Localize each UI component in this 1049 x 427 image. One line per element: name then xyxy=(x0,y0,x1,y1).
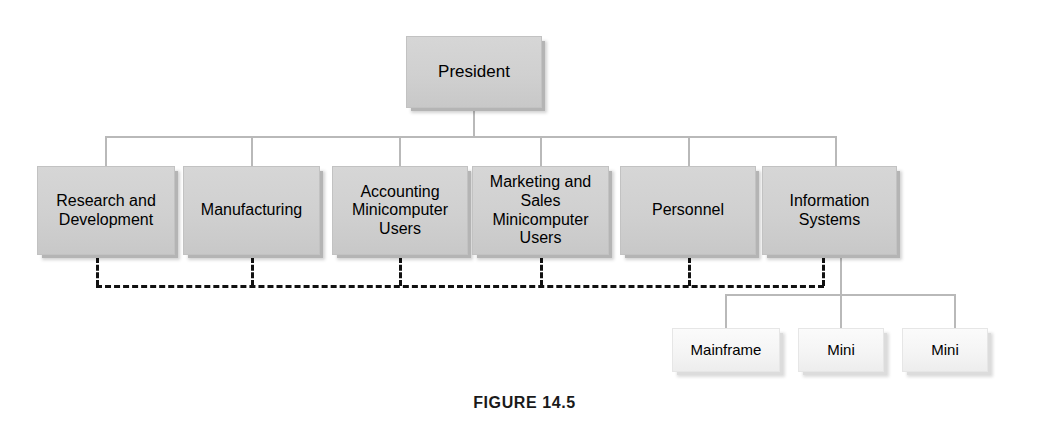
node-manufacturing-label: Manufacturing xyxy=(197,201,306,220)
connector-information-systems-stem xyxy=(840,255,842,295)
dashed-stub-manufacturing xyxy=(251,257,254,286)
connector-drop-mini-1 xyxy=(840,294,842,328)
node-research-and-development-label: Research and Development xyxy=(52,192,160,229)
figure-caption: FIGURE 14.5 xyxy=(0,394,1049,412)
connector-drop-research-and-development xyxy=(105,136,107,166)
node-marketing-and-sales-minicomputer-users-label: Marketing and Sales Minicomputer Users xyxy=(486,173,595,247)
dashed-stub-accounting xyxy=(399,257,402,286)
connector-drop-information-systems xyxy=(835,136,837,166)
node-president[interactable]: President xyxy=(406,36,542,108)
connector-president-stem xyxy=(473,108,475,138)
node-information-systems[interactable]: Information Systems xyxy=(762,166,897,255)
dashed-stub-information-systems xyxy=(822,257,825,286)
node-research-and-development[interactable]: Research and Development xyxy=(37,166,175,255)
node-mini-1-label: Mini xyxy=(823,341,859,358)
connector-drop-mini-2 xyxy=(954,294,956,328)
node-president-label: President xyxy=(434,62,514,82)
dashed-stub-marketing xyxy=(540,257,543,286)
node-accounting-minicomputer-users[interactable]: Accounting Minicomputer Users xyxy=(332,166,468,255)
connector-drop-personnel xyxy=(688,136,690,166)
connector-drop-marketing xyxy=(540,136,542,166)
node-mini-1[interactable]: Mini xyxy=(798,328,884,372)
node-personnel-label: Personnel xyxy=(648,201,728,220)
connector-top-bus xyxy=(105,136,836,138)
connector-drop-mainframe xyxy=(725,294,727,328)
node-mainframe-label: Mainframe xyxy=(687,341,766,358)
node-marketing-and-sales-minicomputer-users[interactable]: Marketing and Sales Minicomputer Users xyxy=(472,166,609,255)
node-mainframe[interactable]: Mainframe xyxy=(672,328,780,372)
org-chart-figure: President Research and Development Manuf… xyxy=(0,0,1049,427)
dashed-stub-research-and-development xyxy=(96,257,99,286)
node-manufacturing[interactable]: Manufacturing xyxy=(183,166,320,255)
dashed-stub-personnel xyxy=(688,257,691,286)
node-information-systems-label: Information Systems xyxy=(785,192,873,229)
connector-drop-accounting xyxy=(399,136,401,166)
node-accounting-minicomputer-users-label: Accounting Minicomputer Users xyxy=(348,183,452,239)
node-mini-2-label: Mini xyxy=(927,341,963,358)
connector-drop-manufacturing xyxy=(251,136,253,166)
node-mini-2[interactable]: Mini xyxy=(902,328,988,372)
dashed-network-bus xyxy=(96,285,824,288)
node-personnel[interactable]: Personnel xyxy=(620,166,756,255)
